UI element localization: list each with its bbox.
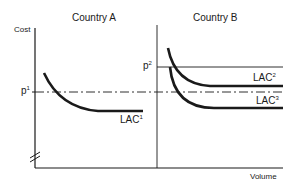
panel-title-country-b: Country B: [193, 13, 237, 23]
x-axis-label: Volume: [250, 173, 277, 181]
curve-label-lac2: LAC2: [253, 73, 276, 83]
curve-label-lac1: LAC1: [120, 115, 143, 125]
diagram-canvas: [0, 0, 293, 189]
price-label-p1: p1: [21, 86, 30, 96]
curve-label-lac3: LAC3: [256, 96, 279, 106]
y-axis-label: Cost: [14, 26, 30, 34]
panel-title-country-a: Country A: [72, 13, 116, 23]
price-label-p2: p2: [143, 61, 152, 71]
